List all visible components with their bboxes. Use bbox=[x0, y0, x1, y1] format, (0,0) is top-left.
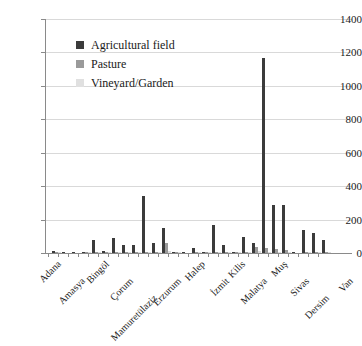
legend-item-pasture: Pasture bbox=[76, 55, 175, 72]
x-axis-label: Halep bbox=[115, 259, 207, 346]
x-axis-labels: AdanaAmasyaBingölÇorumMamuretülazizErzur… bbox=[0, 253, 362, 325]
bar bbox=[282, 205, 285, 253]
bar bbox=[272, 205, 275, 253]
legend-swatch-icon-agricultural-field bbox=[76, 41, 84, 49]
legend-label-agricultural-field: Agricultural field bbox=[91, 39, 175, 51]
legend-item-agricultural-field: Agricultural field bbox=[76, 36, 175, 53]
bar bbox=[112, 238, 115, 253]
bar bbox=[262, 58, 265, 253]
x-axis-label: Bingöl bbox=[19, 259, 111, 346]
legend-label-pasture: Pasture bbox=[91, 58, 126, 70]
chart-legend: Agricultural field Pasture Vineyard/Gard… bbox=[76, 36, 175, 93]
legend-swatch-icon-vineyard-garden bbox=[76, 79, 84, 87]
bar bbox=[142, 196, 145, 253]
bar bbox=[302, 230, 305, 253]
legend-item-vineyard-garden: Vineyard/Garden bbox=[76, 74, 175, 91]
bar bbox=[312, 233, 315, 253]
legend-swatch-icon-pasture bbox=[76, 60, 84, 68]
bar bbox=[212, 225, 215, 253]
bar bbox=[242, 237, 245, 253]
legend-label-vineyard-garden: Vineyard/Garden bbox=[91, 77, 174, 89]
